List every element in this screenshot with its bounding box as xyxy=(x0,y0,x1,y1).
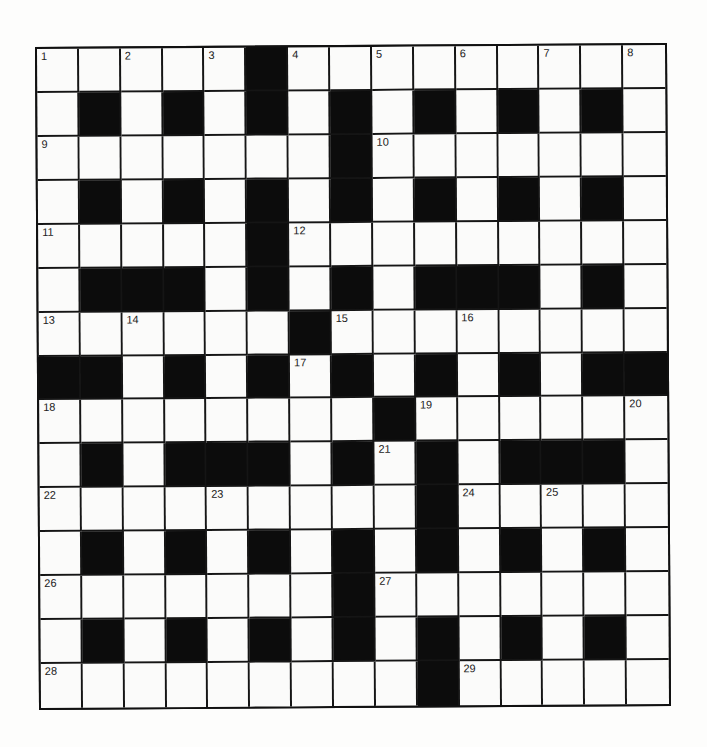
answer-cell[interactable]: 22 xyxy=(40,488,82,532)
answer-cell[interactable] xyxy=(122,180,164,224)
answer-cell[interactable] xyxy=(248,311,290,355)
answer-cell[interactable] xyxy=(417,574,459,618)
answer-cell[interactable] xyxy=(415,222,457,266)
answer-cell[interactable] xyxy=(166,575,208,619)
answer-cell[interactable] xyxy=(540,133,582,177)
answer-cell[interactable] xyxy=(37,93,79,137)
answer-cell[interactable] xyxy=(458,441,500,485)
answer-cell[interactable]: 5 xyxy=(372,47,414,91)
answer-cell[interactable] xyxy=(375,486,417,530)
answer-cell[interactable] xyxy=(627,616,669,660)
answer-cell[interactable]: 26 xyxy=(40,576,82,620)
answer-cell[interactable] xyxy=(626,440,668,484)
answer-cell[interactable] xyxy=(206,223,248,267)
answer-cell[interactable] xyxy=(208,663,250,707)
answer-cell[interactable] xyxy=(38,268,80,312)
answer-cell[interactable] xyxy=(540,177,582,221)
answer-cell[interactable]: 20 xyxy=(625,397,667,441)
answer-cell[interactable] xyxy=(291,443,333,487)
answer-cell[interactable] xyxy=(123,487,165,531)
answer-cell[interactable] xyxy=(40,532,82,576)
answer-cell[interactable] xyxy=(415,310,457,354)
answer-cell[interactable] xyxy=(626,528,668,572)
answer-cell[interactable] xyxy=(541,265,583,309)
answer-cell[interactable] xyxy=(163,136,205,180)
answer-cell[interactable] xyxy=(207,531,249,575)
answer-cell[interactable] xyxy=(166,663,208,707)
answer-cell[interactable] xyxy=(540,221,582,265)
answer-cell[interactable] xyxy=(542,529,584,573)
answer-cell[interactable]: 17 xyxy=(290,355,332,399)
answer-cell[interactable] xyxy=(332,398,374,442)
answer-cell[interactable] xyxy=(456,134,498,178)
answer-cell[interactable] xyxy=(458,398,500,442)
answer-cell[interactable]: 14 xyxy=(122,312,164,356)
answer-cell[interactable] xyxy=(626,484,668,528)
answer-cell[interactable] xyxy=(250,575,292,619)
answer-cell[interactable] xyxy=(624,221,666,265)
answer-cell[interactable] xyxy=(40,620,82,664)
answer-cell[interactable] xyxy=(38,180,80,224)
answer-cell[interactable] xyxy=(83,663,125,707)
answer-cell[interactable] xyxy=(584,573,626,617)
answer-cell[interactable] xyxy=(375,530,417,574)
answer-cell[interactable] xyxy=(164,311,206,355)
answer-cell[interactable] xyxy=(540,90,582,134)
answer-cell[interactable] xyxy=(583,309,625,353)
answer-cell[interactable] xyxy=(163,48,205,92)
answer-cell[interactable] xyxy=(373,222,415,266)
answer-cell[interactable]: 25 xyxy=(542,485,584,529)
answer-cell[interactable] xyxy=(499,309,541,353)
answer-cell[interactable] xyxy=(625,309,667,353)
answer-cell[interactable] xyxy=(80,312,122,356)
answer-cell[interactable] xyxy=(121,92,163,136)
answer-cell[interactable] xyxy=(374,354,416,398)
answer-cell[interactable]: 1 xyxy=(37,49,79,93)
answer-cell[interactable] xyxy=(585,660,627,704)
answer-cell[interactable] xyxy=(124,575,166,619)
answer-cell[interactable] xyxy=(583,397,625,441)
answer-cell[interactable] xyxy=(459,529,501,573)
answer-cell[interactable] xyxy=(250,662,292,706)
answer-cell[interactable] xyxy=(331,223,373,267)
answer-cell[interactable]: 6 xyxy=(456,46,498,90)
answer-cell[interactable] xyxy=(375,618,417,662)
answer-cell[interactable] xyxy=(79,136,121,180)
answer-cell[interactable] xyxy=(582,133,624,177)
answer-cell[interactable] xyxy=(208,619,250,663)
answer-cell[interactable]: 19 xyxy=(416,398,458,442)
answer-cell[interactable] xyxy=(82,576,124,620)
answer-cell[interactable] xyxy=(206,355,248,399)
answer-cell[interactable]: 2 xyxy=(121,48,163,92)
answer-cell[interactable] xyxy=(581,45,623,89)
answer-cell[interactable] xyxy=(624,265,666,309)
answer-cell[interactable] xyxy=(164,224,206,268)
answer-cell[interactable] xyxy=(458,354,500,398)
answer-cell[interactable]: 8 xyxy=(623,45,665,89)
answer-cell[interactable] xyxy=(541,309,583,353)
answer-cell[interactable]: 12 xyxy=(289,223,331,267)
answer-cell[interactable] xyxy=(498,134,540,178)
answer-cell[interactable] xyxy=(501,573,543,617)
answer-cell[interactable] xyxy=(122,224,164,268)
answer-cell[interactable] xyxy=(292,662,334,706)
answer-cell[interactable] xyxy=(289,179,331,223)
answer-cell[interactable] xyxy=(292,618,334,662)
answer-cell[interactable] xyxy=(501,661,543,705)
answer-cell[interactable] xyxy=(81,400,123,444)
answer-cell[interactable]: 11 xyxy=(38,224,80,268)
answer-cell[interactable] xyxy=(39,444,81,488)
answer-cell[interactable] xyxy=(124,531,166,575)
answer-cell[interactable] xyxy=(248,399,290,443)
answer-cell[interactable] xyxy=(123,356,165,400)
answer-cell[interactable] xyxy=(459,617,501,661)
answer-cell[interactable] xyxy=(123,400,165,444)
answer-cell[interactable] xyxy=(205,92,247,136)
answer-cell[interactable] xyxy=(542,397,584,441)
answer-cell[interactable]: 16 xyxy=(457,310,499,354)
answer-cell[interactable]: 23 xyxy=(207,487,249,531)
answer-cell[interactable] xyxy=(543,617,585,661)
answer-cell[interactable] xyxy=(289,135,331,179)
answer-cell[interactable] xyxy=(372,91,414,135)
answer-cell[interactable]: 29 xyxy=(459,661,501,705)
